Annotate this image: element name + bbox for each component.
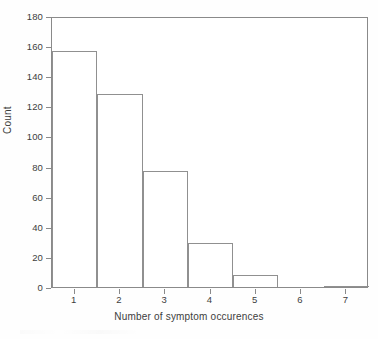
- x-axis-tick-label: 3: [152, 295, 176, 305]
- histogram-bar: [188, 243, 233, 287]
- x-axis-tick-label: 6: [288, 295, 312, 305]
- y-axis-tick-label: 60: [32, 193, 43, 203]
- histogram-figure: Count 020406080100120140160180 1234567 N…: [0, 0, 378, 339]
- histogram-bar: [324, 286, 369, 288]
- histogram-bar: [233, 275, 278, 287]
- x-axis-tick-label: 5: [243, 295, 267, 305]
- histogram-bar: [143, 171, 188, 287]
- plot-area: [51, 17, 368, 288]
- x-axis-tick-label: 7: [333, 295, 357, 305]
- histogram-bar: [97, 94, 142, 287]
- y-axis-tick-label: 160: [27, 42, 43, 52]
- y-axis-tick-label: 0: [38, 283, 43, 293]
- x-axis-tick-label: 2: [107, 295, 131, 305]
- y-axis-tick-label: 40: [32, 223, 43, 233]
- y-axis-tick-label: 20: [32, 253, 43, 263]
- scan-artifact: [20, 330, 140, 334]
- x-axis-tick-label: 4: [198, 295, 222, 305]
- y-axis-tick-label: 80: [32, 163, 43, 173]
- y-axis-tick-label: 120: [27, 102, 43, 112]
- x-axis-title: Number of symptom occurences: [0, 311, 378, 322]
- histogram-bar: [52, 51, 97, 287]
- y-axis-tick: [46, 288, 51, 289]
- y-axis-tick-label: 180: [27, 12, 43, 22]
- y-axis-tick-label: 140: [27, 72, 43, 82]
- y-axis-tick-label: 100: [27, 132, 43, 142]
- x-axis-tick-label: 1: [62, 295, 86, 305]
- y-axis: 020406080100120140160180: [0, 0, 51, 306]
